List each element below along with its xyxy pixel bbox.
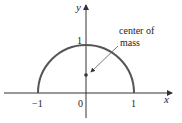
x-axis-label: x (163, 93, 169, 105)
origin-label: 0 (78, 98, 83, 109)
annotation-line1: center of (119, 25, 155, 36)
center-of-mass-point (84, 73, 88, 77)
y-axis-label: y (75, 1, 81, 13)
annotation-line2: mass (120, 37, 140, 48)
x-tick-neg-one: −1 (32, 98, 43, 109)
diagram-canvas: y x 1 −1 0 1 center of mass (0, 0, 182, 123)
y-tick-one: 1 (77, 35, 82, 46)
annotation-arrow (91, 46, 118, 72)
x-tick-one: 1 (131, 98, 136, 109)
